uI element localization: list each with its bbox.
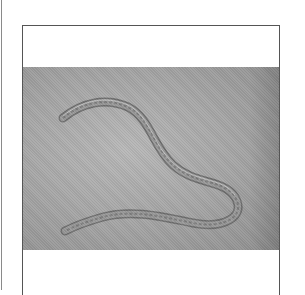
image-frame — [22, 25, 280, 295]
photo-vignette — [249, 67, 279, 250]
nematode-photo — [23, 67, 279, 250]
left-divider-line — [1, 0, 2, 290]
nematode-worm-icon — [23, 67, 279, 250]
